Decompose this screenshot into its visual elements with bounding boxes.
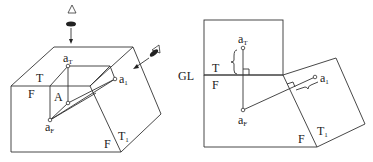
eye-top-view-icon: [66, 5, 76, 44]
line-A-a1: [68, 79, 115, 103]
projector-aux: [243, 77, 315, 110]
label-F2: F: [104, 137, 111, 151]
point-A: [66, 101, 70, 105]
left-pictorial-figure: aT a1 aF A T F F T1: [11, 5, 161, 152]
right-angle-mark-1: [243, 69, 249, 75]
label-a1: a1: [119, 72, 128, 87]
label-T: T: [36, 71, 44, 85]
point-a1: [113, 77, 117, 81]
label-aT: aT: [63, 51, 73, 66]
label-F: F: [212, 78, 219, 92]
label-T1: T1: [317, 124, 328, 139]
label-F2: F: [298, 132, 305, 146]
projection-diagram: aT a1 aF A T F F T1: [0, 0, 373, 162]
label-T1: T1: [118, 129, 129, 144]
label-aF: aF: [238, 113, 247, 128]
right-orthographic-figure: aT aF a1 GL T F F T1: [178, 20, 365, 147]
distance-brace-aux: [296, 82, 318, 90]
label-A: A: [54, 90, 63, 104]
label-aT: aT: [238, 32, 248, 47]
label-a1: a1: [320, 71, 329, 86]
label-aF: aF: [45, 120, 54, 135]
label-F: F: [28, 87, 35, 101]
distance-brace-top: [231, 50, 237, 74]
label-T: T: [212, 61, 220, 75]
point-a1: [313, 75, 317, 79]
label-GL: GL: [178, 69, 194, 83]
point-aF: [241, 108, 245, 112]
